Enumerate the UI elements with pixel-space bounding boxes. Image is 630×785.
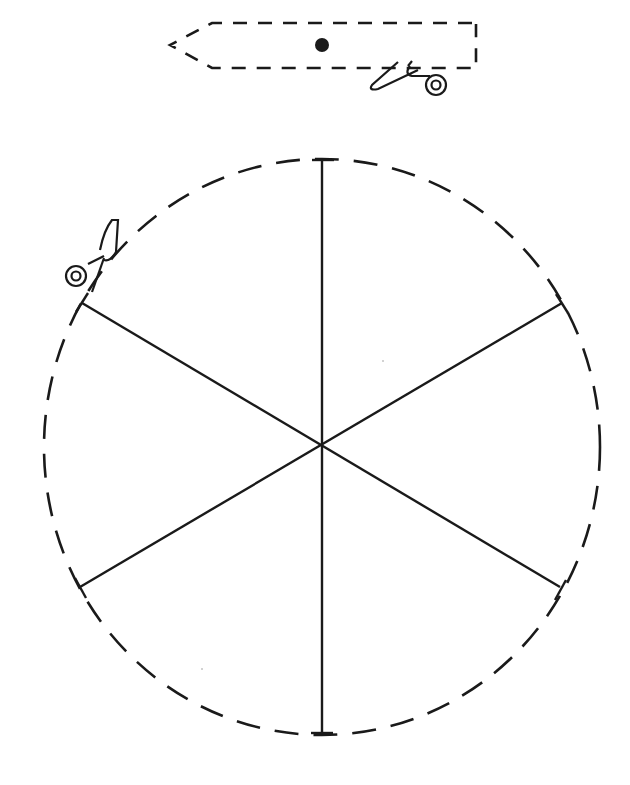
tick-lower-left — [75, 578, 86, 598]
scissors-icon — [371, 61, 446, 95]
speck — [382, 360, 384, 362]
tick-upper-left — [76, 293, 88, 312]
pointer-strip — [170, 23, 476, 68]
scissors-icon — [66, 220, 118, 292]
spinner-template — [0, 0, 630, 785]
speck — [201, 668, 203, 670]
wheel — [44, 159, 600, 735]
hole-marker-dot — [315, 38, 329, 52]
tick-upper-right — [556, 294, 568, 313]
